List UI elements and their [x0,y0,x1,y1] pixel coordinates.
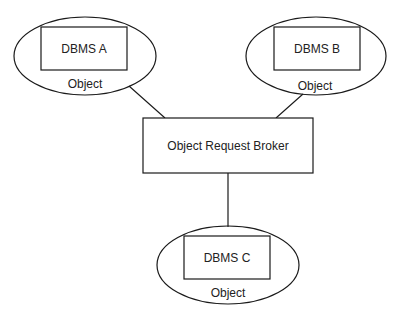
broker-node: Object Request Broker [143,118,313,173]
diagram-canvas: DBMS A Object DBMS B Object Object Reque… [0,0,401,318]
connector-a-broker [129,86,165,118]
broker-label: Object Request Broker [167,139,288,153]
object-node-a: DBMS A Object [14,17,156,95]
object-caption-b: Object [298,79,333,93]
object-node-c: DBMS C Object [157,226,299,304]
object-caption-a: Object [68,77,103,91]
object-node-b: DBMS B Object [246,17,386,95]
object-caption-c: Object [211,286,246,300]
dbms-label-a: DBMS A [61,42,106,56]
dbms-label-c: DBMS C [204,251,251,265]
dbms-label-b: DBMS B [294,42,340,56]
connector-b-broker [276,94,303,118]
